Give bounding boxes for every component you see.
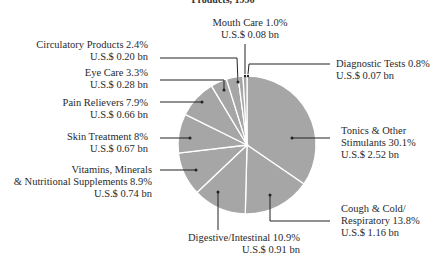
label-skin-treatment: Skin Treatment 8% U.S.$ 0.67 bn	[0, 131, 148, 155]
label-tonics-stimulants: Tonics & Other Stimulants 30.1% U.S.$ 2.…	[341, 125, 416, 161]
label-eye-care: Eye Care 3.3% U.S.$ 0.28 bn	[0, 67, 148, 91]
label-digestive-intestinal: Digestive/Intestinal 10.9% U.S.$ 0.91 bn	[100, 232, 300, 256]
leader-circulatory	[160, 58, 238, 82]
label-circulatory-products: Circulatory Products 2.4% U.S.$ 0.20 bn	[0, 39, 148, 63]
label-cough-cold: Cough & Cold/ Respiratory 13.8% U.S.$ 1.…	[341, 203, 420, 239]
label-diagnostic-tests: Diagnostic Tests 0.8% U.S.$ 0.07 bn	[336, 58, 430, 82]
label-vitamins-minerals: Vitamins, Minerals & Nutritional Supplem…	[0, 164, 152, 200]
label-mouth-care: Mouth Care 1.0% U.S.$ 0.08 bn	[210, 17, 290, 41]
pie-slices	[178, 76, 316, 214]
label-pain-relievers: Pain Relievers 7.9% U.S.$ 0.66 bn	[0, 97, 148, 121]
leader-diagnostic	[248, 64, 330, 74]
